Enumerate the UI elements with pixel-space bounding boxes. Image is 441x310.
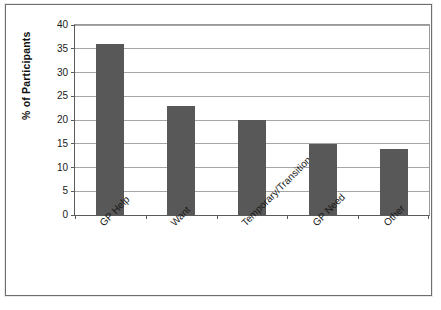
gridline — [75, 25, 429, 26]
gridline — [75, 96, 429, 97]
y-axis-tick — [71, 48, 75, 49]
bar — [167, 106, 195, 215]
gridline — [75, 72, 429, 73]
x-axis-tick — [217, 215, 218, 219]
y-axis-tick — [71, 143, 75, 144]
y-axis-title: % of Participants — [20, 31, 32, 120]
x-axis-tick — [358, 215, 359, 219]
y-axis-tick — [71, 167, 75, 168]
x-axis-tick — [287, 215, 288, 219]
bar — [380, 149, 408, 216]
chart-figure: % of Participants 0510152025303540GP Hel… — [0, 0, 441, 310]
figure-border: % of Participants 0510152025303540GP Hel… — [5, 4, 432, 296]
plot-area: 0510152025303540GP HelpWantTemporary/Tra… — [74, 24, 430, 216]
y-axis-tick — [71, 25, 75, 26]
y-axis-tick — [71, 120, 75, 121]
y-axis-tick-label: 10 — [57, 163, 68, 173]
y-axis-tick — [71, 72, 75, 73]
x-axis-tick — [428, 215, 429, 219]
bar — [96, 44, 124, 215]
gridline — [75, 48, 429, 49]
y-axis-tick-label: 30 — [57, 68, 68, 78]
x-axis-tick — [75, 215, 76, 219]
y-axis-tick-label: 0 — [62, 210, 68, 220]
y-axis-tick-label: 20 — [57, 115, 68, 125]
y-axis-tick-label: 5 — [62, 186, 68, 196]
y-axis-tick-label: 15 — [57, 139, 68, 149]
x-axis-tick — [146, 215, 147, 219]
y-axis-tick — [71, 191, 75, 192]
y-axis-tick-label: 25 — [57, 91, 68, 101]
y-axis-tick-label: 35 — [57, 44, 68, 54]
y-axis-tick — [71, 96, 75, 97]
y-axis-tick-label: 40 — [57, 20, 68, 30]
